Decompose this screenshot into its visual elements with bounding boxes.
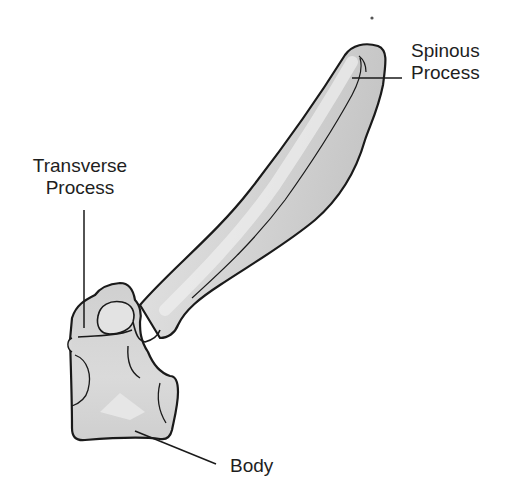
- label-spinous-line2: Process: [411, 62, 480, 84]
- speck: [370, 16, 373, 19]
- label-transverse-process: Transverse Process: [27, 155, 133, 199]
- label-spinous-process: Spinous Process: [411, 40, 480, 84]
- spinous-process-shape: [140, 44, 385, 338]
- label-body-text: Body: [230, 455, 273, 477]
- label-transverse-line2: Process: [27, 177, 133, 199]
- leader-line-body: [135, 431, 216, 464]
- label-body: Body: [230, 455, 273, 477]
- label-spinous-line1: Spinous: [411, 40, 480, 62]
- label-transverse-line1: Transverse: [27, 155, 133, 177]
